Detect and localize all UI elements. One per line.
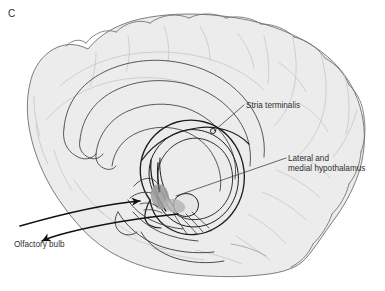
label-hypothalamus-line1: Lateral and — [288, 154, 329, 163]
label-hypothalamus: Lateral andmedial hypothalamus — [288, 154, 365, 174]
cerebrum-outline — [27, 14, 364, 277]
panel-letter: C — [8, 8, 15, 19]
label-stria-terminalis: Stria terminalis — [246, 101, 300, 111]
cerebrum — [27, 14, 365, 277]
label-olfactory-bulb: Olfactory bulb — [14, 240, 65, 250]
label-hypothalamus-line2: medial hypothalamus — [288, 164, 365, 173]
